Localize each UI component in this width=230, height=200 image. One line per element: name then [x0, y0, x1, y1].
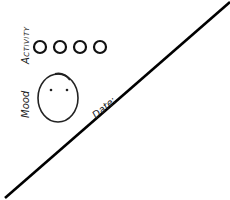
activity-circles [34, 41, 106, 53]
activity-circle-4[interactable] [94, 41, 106, 53]
mood-face-icon [38, 74, 78, 122]
face-eye-right [66, 89, 69, 92]
activity-circle-3[interactable] [74, 41, 86, 53]
activity-circle-1[interactable] [34, 41, 46, 53]
face-eye-left [50, 89, 53, 92]
activity-circle-2[interactable] [54, 41, 66, 53]
activity-label: Activity [20, 27, 31, 64]
journal-sheet: Activity Mood Date: [0, 0, 230, 200]
mood-label: Mood [20, 91, 31, 118]
